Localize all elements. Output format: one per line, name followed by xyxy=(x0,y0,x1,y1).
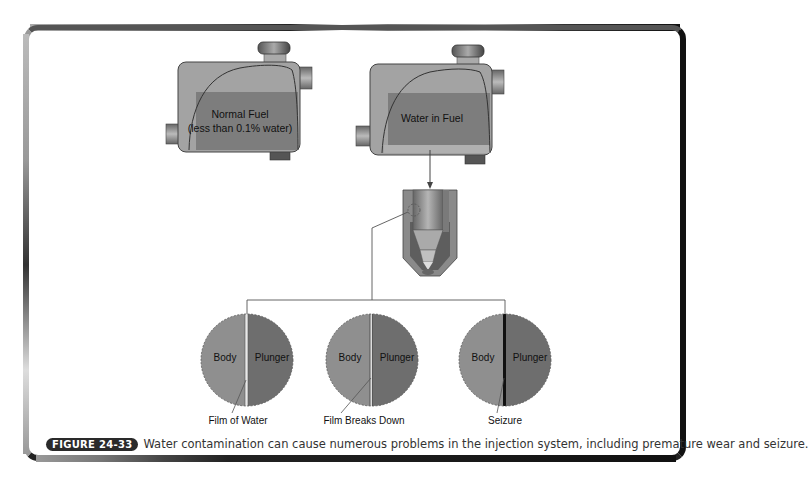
filter1-label-line1: Normal Fuel xyxy=(211,108,268,120)
arrow-down-icon xyxy=(427,182,433,189)
circle1-plunger-label: Plunger xyxy=(255,352,290,363)
circle3-caption: Seizure xyxy=(488,415,522,426)
circle1-body-label: Body xyxy=(214,352,237,363)
injector-nozzle xyxy=(403,190,457,276)
circle-seizure: Body Plunger Seizure xyxy=(458,313,553,426)
circle2-plunger-label: Plunger xyxy=(380,352,415,363)
circle3-plunger-label: Plunger xyxy=(513,352,548,363)
filter-water-in-fuel: Water in Fuel xyxy=(356,45,504,164)
filter1-label-line2: (less than 0.1% water) xyxy=(188,122,292,134)
circle-film-of-water: Body Plunger Film of Water xyxy=(200,313,295,426)
circle1-caption: Film of Water xyxy=(208,415,268,426)
figure-caption: FIGURE 24-33 Water contamination can cau… xyxy=(46,436,808,452)
circle3-body-label: Body xyxy=(472,352,495,363)
circle-film-breaks-down: Body Plunger Film Breaks Down xyxy=(323,313,420,426)
figure-number-badge: FIGURE 24-33 xyxy=(46,438,138,451)
filter2-label: Water in Fuel xyxy=(401,112,463,124)
filter-normal-fuel: Normal Fuel (less than 0.1% water) xyxy=(166,42,312,160)
circle2-caption: Film Breaks Down xyxy=(323,415,404,426)
figure-caption-text: Water contamination can cause numerous p… xyxy=(143,437,808,451)
circle2-body-label: Body xyxy=(339,352,362,363)
